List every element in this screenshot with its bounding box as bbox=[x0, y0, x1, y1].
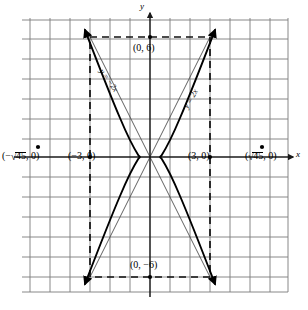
point-neg-sqrt45-0 bbox=[36, 145, 40, 149]
radical-tick-right: √ bbox=[248, 152, 254, 162]
point-sqrt45-0 bbox=[260, 145, 264, 149]
point-0-neg6 bbox=[148, 275, 152, 279]
radical-left-symbol: √45 bbox=[11, 151, 26, 161]
label-point-sqrt45-0: (√45, 0) bbox=[245, 151, 277, 161]
label-point-neg-sqrt45-0: (−√45, 0) bbox=[2, 151, 39, 161]
label-point-0-6: (0, 6) bbox=[133, 43, 155, 53]
hyperbola-figure: y x (0, 6) (0, −6) (−3, 0) (3, 0) (−√45,… bbox=[0, 0, 308, 310]
radical-right-symbol: √45 bbox=[248, 151, 263, 161]
x-axis-label: x bbox=[296, 150, 300, 159]
radical-left-suffix: , 0) bbox=[26, 150, 39, 161]
point-0-6 bbox=[148, 35, 152, 39]
radical-right-suffix: , 0) bbox=[263, 150, 276, 161]
radical-bar-right bbox=[252, 152, 263, 153]
radical-tick-left: √ bbox=[11, 152, 17, 162]
y-axis-label: y bbox=[140, 2, 144, 11]
label-point-0-neg6: (0, −6) bbox=[130, 260, 157, 270]
label-point-neg3-0: (−3, 0) bbox=[68, 151, 95, 161]
radical-bar-left bbox=[15, 152, 26, 153]
radical-left-prefix: (− bbox=[2, 150, 11, 161]
label-point-3-0: (3, 0) bbox=[188, 151, 210, 161]
